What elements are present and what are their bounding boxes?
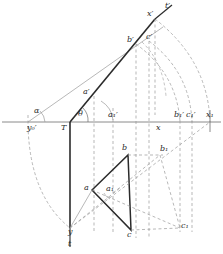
label-b1: b₁ bbox=[160, 145, 168, 153]
label-c-prime: c′ bbox=[146, 33, 152, 41]
rotation-arc-inner bbox=[142, 42, 166, 96]
geometry-figure: α y₀′ T θ a₁′ x b₁′ c₁′ x₁ a′ b′ c′ x′ t… bbox=[0, 0, 223, 254]
angle-arc-theta bbox=[83, 108, 88, 122]
label-x1: x₁ bbox=[206, 111, 214, 119]
label-alpha: α bbox=[34, 107, 39, 115]
label-T: T bbox=[61, 124, 66, 132]
label-c: c bbox=[127, 231, 131, 239]
aux-line-b1-c1 bbox=[160, 155, 180, 228]
label-y: y bbox=[68, 228, 73, 236]
label-c1-prime: c₁′ bbox=[186, 111, 196, 119]
label-x-prime: x′ bbox=[147, 10, 153, 18]
label-a-prime: a′ bbox=[83, 88, 90, 96]
label-b1-prime: b₁′ bbox=[174, 111, 184, 119]
label-t: t bbox=[68, 240, 71, 248]
trace-line-t-prime bbox=[70, 19, 155, 122]
label-y0-prime: y₀′ bbox=[27, 124, 37, 132]
label-t-prime: t′ bbox=[165, 2, 170, 10]
rotation-arc-x bbox=[155, 19, 210, 122]
aux-line-y-x1-long bbox=[70, 122, 210, 228]
label-a1: a₁ bbox=[106, 185, 114, 193]
label-x: x bbox=[156, 124, 161, 132]
aux-line-c-c1 bbox=[131, 228, 180, 230]
construction-line-alpha bbox=[28, 27, 163, 122]
rotation-arc-y bbox=[28, 126, 70, 228]
aux-line-a1-b1 bbox=[113, 155, 160, 193]
aux-line-y-a bbox=[70, 190, 92, 228]
label-b-prime: b′ bbox=[127, 36, 134, 44]
label-a: a bbox=[84, 184, 89, 192]
label-c1: c₁ bbox=[181, 222, 189, 230]
label-theta: θ bbox=[78, 110, 83, 118]
label-b: b bbox=[122, 144, 127, 152]
label-a1-prime: a₁′ bbox=[108, 111, 118, 119]
angle-arc-a1 bbox=[104, 193, 110, 199]
